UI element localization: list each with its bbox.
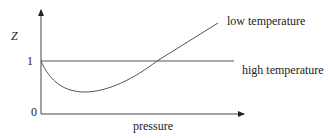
x-axis-label: pressure — [133, 120, 173, 132]
low-temperature-label: low temperature — [227, 15, 305, 27]
y-tick-one: 1 — [27, 55, 33, 67]
high-temperature-label: high temperature — [242, 64, 324, 76]
low-temperature-curve — [41, 23, 218, 92]
y-tick-zero: 0 — [31, 106, 37, 118]
y-axis-label: Z — [11, 30, 18, 42]
